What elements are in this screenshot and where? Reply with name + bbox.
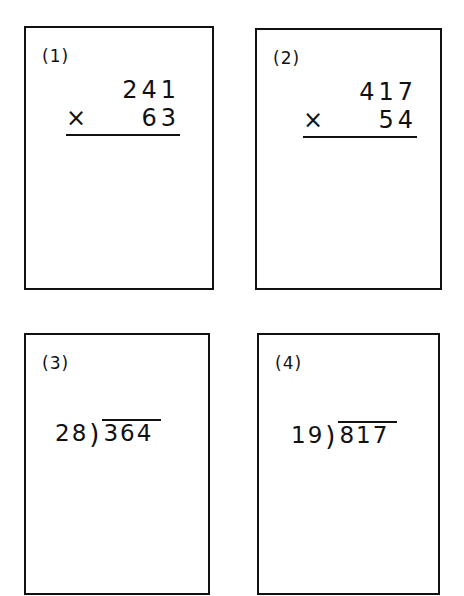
problem-box-3: (3) 28 ) 364	[24, 333, 210, 595]
divisor: 28	[55, 420, 88, 446]
divisor: 19	[291, 422, 324, 448]
dividend: 364	[102, 419, 161, 446]
problem-box-2: (2) 417 × 54	[255, 28, 442, 290]
times-operator: ×	[303, 106, 327, 134]
problem-box-4: (4) 19 ) 817	[257, 333, 440, 595]
answer-line	[303, 136, 417, 138]
problem-label: (2)	[273, 48, 300, 68]
multiplier: 63	[141, 104, 180, 132]
division-bracket: )	[89, 421, 101, 447]
long-division-problem: 28 ) 364	[55, 419, 161, 446]
long-division-problem: 19 ) 817	[291, 421, 397, 448]
problem-label: (1)	[42, 46, 69, 66]
multiplication-problem: 417 × 54	[303, 78, 417, 138]
multiplier: 54	[378, 106, 417, 134]
division-bracket: )	[325, 423, 337, 449]
problem-label: (3)	[42, 353, 69, 373]
times-operator: ×	[66, 104, 90, 132]
multiplication-problem: 241 × 63	[66, 76, 180, 136]
dividend: 817	[338, 421, 397, 448]
multiplicand: 241	[122, 76, 180, 104]
problem-label: (4)	[275, 353, 302, 373]
problem-box-1: (1) 241 × 63	[24, 26, 214, 290]
multiplicand: 417	[359, 78, 417, 106]
answer-line	[66, 134, 180, 136]
